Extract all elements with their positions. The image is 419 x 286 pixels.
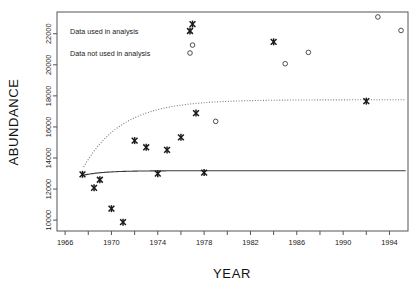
x-tick-label: 1994: [381, 238, 397, 247]
data-point-x: [91, 184, 97, 191]
data-point-x: [271, 38, 277, 45]
data-point-circle: [188, 51, 193, 56]
data-point-x: [187, 28, 193, 35]
y-tick-label: 16000: [44, 117, 53, 138]
x-tick-label: 1978: [196, 238, 212, 247]
data-point-circle: [283, 61, 288, 66]
x-axis-ticks: [65, 231, 389, 235]
y-tick-label: 22000: [44, 23, 53, 44]
y-tick-label: 18000: [44, 86, 53, 107]
data-point-x: [178, 134, 184, 141]
y-tick-label: 14000: [44, 148, 53, 169]
legend-label-not-used: Data not used in analysis: [70, 49, 151, 58]
scatter-plot: 19661970197419781982198619901994 1000012…: [0, 0, 419, 286]
data-point-x: [120, 219, 126, 226]
x-axis-title: YEAR: [213, 266, 251, 281]
chart-legend: Data used in analysisData not used in an…: [70, 27, 193, 58]
data-point-x: [190, 21, 196, 28]
data-point-x: [201, 169, 207, 176]
data-point-circle: [399, 28, 404, 33]
data-point-circle: [306, 50, 311, 55]
fitted-curve-solid: [84, 171, 406, 175]
data-point-x: [132, 137, 138, 144]
plot-frame: [57, 12, 408, 231]
data-point-x: [363, 98, 369, 105]
x-tick-label: 1970: [103, 238, 119, 247]
fitted-curves: [84, 100, 406, 175]
data-points: [80, 15, 404, 226]
y-axis-ticks: [53, 34, 57, 220]
data-point-x: [109, 205, 115, 212]
y-tick-label: 20000: [44, 55, 53, 76]
x-tick-label: 1990: [335, 238, 351, 247]
x-tick-label: 1974: [150, 238, 166, 247]
plot-border: [57, 12, 408, 231]
legend-label-used: Data used in analysis: [70, 27, 139, 36]
data-point-x: [164, 146, 170, 153]
x-tick-label: 1982: [242, 238, 258, 247]
data-point-circle: [213, 119, 218, 124]
x-tick-label: 1966: [57, 238, 73, 247]
data-point-x: [143, 144, 149, 151]
data-point-x: [155, 170, 161, 177]
data-point-x: [80, 171, 86, 178]
y-tick-label: 12000: [44, 179, 53, 200]
fitted-curve-dotted: [84, 100, 406, 167]
data-point-circle: [376, 15, 381, 20]
y-axis-title: ABUNDANCE: [6, 78, 21, 165]
data-point-x: [193, 110, 199, 117]
data-point-circle: [190, 43, 195, 48]
x-axis-tick-labels: 19661970197419781982198619901994: [57, 238, 398, 247]
figure-container: 19661970197419781982198619901994 1000012…: [0, 0, 419, 286]
series-not-used: [190, 15, 403, 124]
y-axis-tick-labels: 10000120001400016000180002000022000: [44, 23, 53, 230]
x-tick-label: 1986: [289, 238, 305, 247]
data-point-x: [97, 176, 103, 183]
y-tick-label: 10000: [44, 210, 53, 231]
